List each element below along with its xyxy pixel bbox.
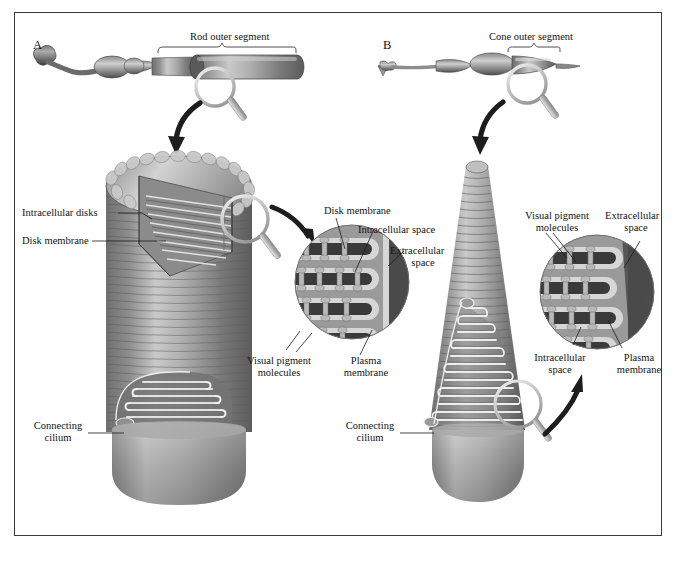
rod-membrane-inset <box>288 225 409 351</box>
inset-rod-plasma-membrane-line1: Plasma <box>338 355 394 367</box>
inset-rod-disk-membrane-label: Disk membrane <box>324 205 391 217</box>
inset-cone-extracellular-space-line1: Extracellular <box>605 210 659 222</box>
inset-cone-plasma-membrane-line2: membrane <box>606 364 672 376</box>
arrow-rod-zoom <box>168 103 200 155</box>
inset-cone-intracellular-space-line2: space <box>528 364 592 376</box>
cone-bracket <box>508 43 560 52</box>
arrow-cone-zoom <box>472 102 503 155</box>
inset-rod-extracellular-space-line1: Extracellular <box>390 245 444 257</box>
connecting-cilium-label-a-line1: Connecting <box>30 420 86 432</box>
intracellular-disks-label: Intracellular disks <box>22 207 98 219</box>
diagram-artwork <box>0 0 678 563</box>
figure-canvas: A B Rod outer segment Cone outer segment… <box>0 0 678 563</box>
inset-cone-visual-pigment-line2: molecules <box>516 222 598 234</box>
inset-cone-extracellular-space-line2: space <box>605 222 667 234</box>
panel-letter-b: B <box>383 38 391 53</box>
disk-membrane-label-a: Disk membrane <box>22 235 89 247</box>
inset-rod-visual-pigment-line2: molecules <box>238 367 320 379</box>
inset-rod-visual-pigment-line1: Visual pigment <box>238 355 320 367</box>
arrow-cone-inset <box>545 374 583 434</box>
connecting-cilium-label-b-line1: Connecting <box>342 420 398 432</box>
panel-letter-a: A <box>33 38 42 53</box>
cone-outer-segment-label: Cone outer segment <box>489 31 573 43</box>
inset-cone-plasma-membrane-line1: Plasma <box>613 352 665 364</box>
cone-photoreceptor-cell <box>378 53 580 76</box>
arrow-rod-inset <box>272 207 315 246</box>
inset-rod-intracellular-space-label: Intracellular space <box>358 224 435 236</box>
rod-photoreceptor-cell <box>34 45 304 79</box>
cone-membrane-inset <box>533 235 654 360</box>
rod-outer-segment-label: Rod outer segment <box>190 31 269 43</box>
rod-bracket <box>158 43 296 53</box>
rod-outer-segment-enlarged <box>104 150 256 505</box>
inset-rod-extracellular-space-line2: space <box>390 257 456 269</box>
inset-cone-intracellular-space-line1: Intracellular <box>528 352 592 364</box>
inset-rod-plasma-membrane-line2: membrane <box>331 367 401 379</box>
inset-cone-visual-pigment-line1: Visual pigment <box>516 210 598 222</box>
connecting-cilium-label-a-line2: cilium <box>30 432 86 444</box>
connecting-cilium-label-b-line2: cilium <box>342 432 398 444</box>
